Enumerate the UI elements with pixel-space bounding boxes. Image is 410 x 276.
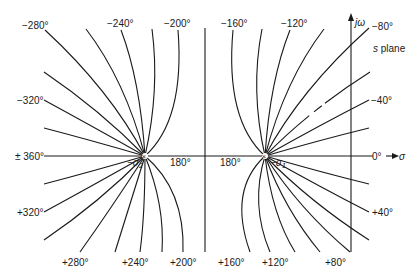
label-neg-200: −200°	[164, 18, 191, 29]
sigma-label: σ	[399, 151, 406, 162]
label-pos-320: +320°	[17, 207, 44, 218]
label-neg-120: −120°	[281, 18, 308, 29]
label-pos-160: +160°	[218, 257, 245, 268]
center-left-label: 180°	[170, 157, 191, 168]
left-pole-contours	[44, 29, 183, 252]
label-pos-240: +240°	[122, 257, 149, 268]
left-pole-x-icon: ×	[142, 152, 147, 161]
label-pos-80: +80°	[325, 257, 346, 268]
label-neg-280: −280°	[22, 20, 49, 31]
left-real-label: ± 360°	[15, 151, 44, 162]
label-pos-120: +120°	[262, 257, 289, 268]
label-neg-160: −160°	[221, 18, 248, 29]
right-pole-contours	[232, 28, 370, 252]
right-pole-x-icon: ×	[262, 152, 267, 161]
label-neg-40: −40°	[371, 95, 392, 106]
s-plane-diagram: × × −σ2 −σ1 ± 360° 180° 180° 0° σ jω s p…	[0, 0, 410, 276]
jw-arrow-icon	[348, 13, 354, 21]
center-right-label: 180°	[220, 157, 241, 168]
label-pos-280: +280°	[62, 257, 89, 268]
jw-label: jω	[353, 17, 365, 28]
label-neg-80: −80°	[372, 21, 393, 32]
real-origin-label: 0°	[372, 151, 382, 162]
sigma-arrow-icon	[392, 153, 399, 159]
label-pos-200: +200°	[170, 257, 197, 268]
label-neg-240: −240°	[107, 18, 134, 29]
label-neg-320: −320°	[17, 95, 44, 106]
s-plane-label: s plane	[373, 43, 406, 54]
label-pos-40: +40°	[372, 207, 393, 218]
right-pole-label: −σ1	[270, 157, 286, 169]
